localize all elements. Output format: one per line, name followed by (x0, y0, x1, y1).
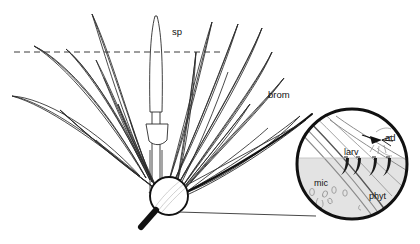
label-phyt: phyt (369, 191, 387, 201)
magnifier-handle (141, 210, 156, 227)
label-ad: ad (385, 132, 396, 143)
figure-canvas: sp brom (0, 0, 420, 244)
label-mic: mic (314, 178, 328, 188)
central-spike (150, 16, 163, 182)
inset-magnified-view (286, 107, 410, 221)
bromeliad-diagram: sp brom (0, 0, 420, 244)
plant-leaves (12, 14, 284, 194)
inset-connectors (178, 124, 316, 216)
label-brom: brom (268, 89, 290, 100)
spike-bract (146, 124, 168, 145)
label-sp: sp (172, 26, 182, 37)
label-larv: larv (344, 147, 359, 157)
